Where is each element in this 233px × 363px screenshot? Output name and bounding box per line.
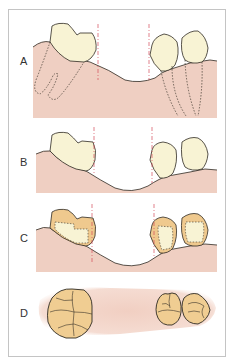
premolar-a2 [181,31,208,63]
panel-label-a: A [20,55,28,67]
dental-diagram: A B C D [0,0,233,363]
premolar-a1 [150,34,178,71]
panel-c [36,204,217,272]
panel-label-d: D [20,307,28,319]
panel-a [33,23,217,118]
panel-d [39,287,216,338]
panel-label-b: B [20,156,27,168]
premolar-b2 [181,138,208,171]
premolar-b1 [150,142,177,178]
prep-outline-c3 [185,222,203,242]
molar-occlusal-d [48,289,93,338]
panel-label-c: C [20,232,28,244]
panel-b [36,127,217,193]
premolar-occlusal-d1 [156,293,181,325]
